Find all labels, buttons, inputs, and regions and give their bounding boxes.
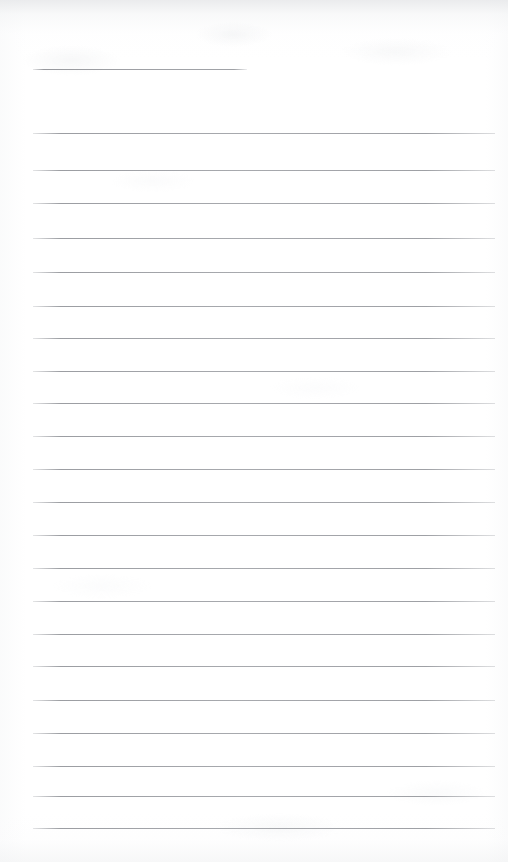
ruled-line <box>33 403 495 404</box>
ruled-line <box>33 601 495 602</box>
ruled-line <box>33 502 495 503</box>
ruled-line <box>33 733 495 734</box>
ruled-line <box>33 766 495 767</box>
ruled-line <box>33 338 495 339</box>
ruled-line <box>33 238 495 239</box>
ruled-line <box>33 469 495 470</box>
ruled-lines-layer <box>0 0 508 862</box>
ruled-line <box>33 436 495 437</box>
ruled-line <box>33 203 495 204</box>
ruled-line <box>33 796 495 797</box>
scanned-page <box>0 0 508 862</box>
ruled-line <box>33 568 495 569</box>
ruled-line <box>33 170 495 171</box>
ruled-line <box>33 700 495 701</box>
ruled-line <box>33 535 495 536</box>
ruled-line <box>33 306 495 307</box>
ruled-line <box>33 69 247 70</box>
ruled-line <box>33 828 495 829</box>
ruled-line <box>33 133 495 134</box>
ruled-line <box>33 272 495 273</box>
ruled-line <box>33 666 495 667</box>
ruled-line <box>33 634 495 635</box>
ruled-line <box>33 371 495 372</box>
